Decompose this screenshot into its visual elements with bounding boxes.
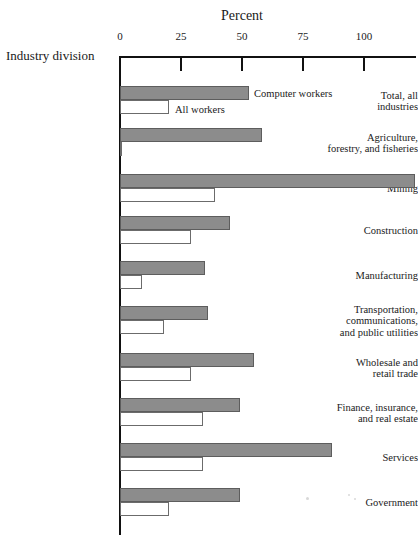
bar-computer-workers [120, 306, 208, 320]
category-label-line: Transportation, [304, 304, 418, 316]
bar-all-workers [120, 100, 169, 114]
scan-speckle [348, 494, 350, 496]
bar-computer-workers [120, 443, 332, 457]
legend-label-all-workers: All workers [175, 104, 225, 115]
bar-all-workers [120, 275, 142, 289]
category-label-line: and public utilities [304, 327, 418, 339]
bar-all-workers [120, 188, 215, 202]
category-label-line: industries [304, 101, 418, 113]
category-label: Finance, insurance,and real estate [304, 402, 418, 425]
category-label-line: forestry, and fisheries [304, 143, 418, 155]
bar-chart: Percent Industry division 0255075100 Tot… [0, 0, 418, 547]
scan-speckle [306, 497, 309, 500]
category-label-line: Manufacturing [304, 270, 418, 282]
bar-computer-workers [120, 353, 254, 367]
bar-computer-workers [120, 488, 240, 502]
x-axis-tick-label-25: 25 [161, 30, 201, 42]
bar-computer-workers [120, 398, 240, 412]
bar-all-workers [120, 457, 203, 471]
bar-all-workers [120, 320, 164, 334]
category-label: Manufacturing [304, 270, 418, 282]
category-label-line: and real estate [304, 413, 418, 425]
category-label: Government [304, 497, 418, 509]
bar-computer-workers [120, 128, 262, 142]
bar-computer-workers [120, 261, 205, 275]
x-axis-tick-25 [180, 57, 182, 71]
y-axis-title: Industry division [6, 48, 94, 64]
category-label: Construction [304, 225, 418, 237]
bar-computer-workers [120, 86, 249, 100]
scan-speckle [354, 498, 356, 500]
bar-all-workers [120, 502, 169, 516]
x-axis-tick-100 [363, 57, 365, 71]
bar-all-workers [120, 367, 191, 381]
x-axis-tick-50 [241, 57, 243, 71]
category-label-line: Construction [304, 225, 418, 237]
x-axis-tick-label-0: 0 [100, 30, 140, 42]
x-axis-tick-label-75: 75 [283, 30, 323, 42]
category-label-line: Wholesale and [304, 357, 418, 369]
x-axis-tick-75 [302, 57, 304, 71]
bar-computer-workers [120, 216, 230, 230]
x-axis-tick-label-50: 50 [222, 30, 262, 42]
bar-all-workers [120, 230, 191, 244]
category-label-line: communications, [304, 315, 418, 327]
legend-label-computer-workers: Computer workers [254, 88, 332, 99]
x-axis-tick-0 [119, 57, 121, 71]
category-label: Wholesale andretail trade [304, 357, 418, 380]
bar-all-workers [120, 142, 122, 156]
chart-title: Percent [120, 8, 364, 24]
bar-computer-workers [120, 174, 415, 188]
category-label-line: Government [304, 497, 418, 509]
category-label: Agriculture,forestry, and fisheries [304, 132, 418, 155]
category-label-line: Agriculture, [304, 132, 418, 144]
category-label: Transportation,communications,and public… [304, 304, 418, 339]
x-axis-tick-label-100: 100 [344, 30, 384, 42]
bar-all-workers [120, 412, 203, 426]
category-label-line: retail trade [304, 368, 418, 380]
x-axis-line [120, 56, 416, 58]
category-label-line: Finance, insurance, [304, 402, 418, 414]
